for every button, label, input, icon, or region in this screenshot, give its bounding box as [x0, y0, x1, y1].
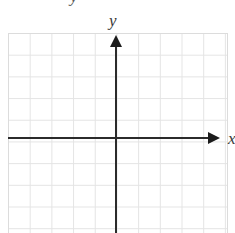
grid-border-top: [8, 33, 228, 34]
x-axis-label: x: [228, 130, 235, 147]
y-axis-arrow-icon: [110, 35, 122, 47]
grid-lines: [8, 33, 228, 233]
x-axis-arrow-icon: [208, 132, 220, 144]
grid-border-left: [8, 33, 9, 233]
coordinate-grid-figure: y y x: [0, 0, 235, 233]
y-axis-label: y: [109, 12, 117, 29]
y-axis-line: [115, 44, 117, 233]
x-axis-line: [8, 137, 216, 139]
clipped-glyph-fragment: y: [70, 0, 78, 5]
grid-area: [8, 33, 228, 233]
